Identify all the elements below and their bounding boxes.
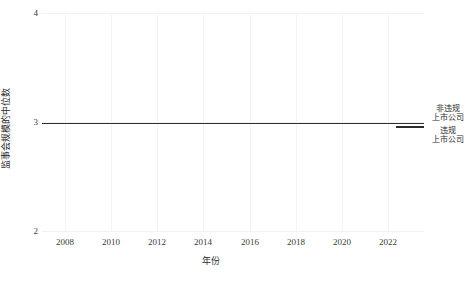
legend-label-line2: 上市公司 (426, 135, 470, 144)
legend-item-violating: 违规 上市公司 (426, 126, 470, 144)
y-tick-text: 2 (34, 226, 39, 236)
y-axis-title: 监事会规模的中位数 (0, 88, 12, 169)
x-tick-label-2012: 2012 (148, 238, 166, 247)
gridline-horizontal (42, 13, 424, 14)
y-tick-text: 4 (34, 8, 39, 18)
x-tick-label-2008: 2008 (56, 238, 74, 247)
x-tick-label-2014: 2014 (194, 238, 212, 247)
x-axis-title-text: 年份 (202, 254, 220, 267)
legend-swatch-violating (396, 126, 424, 128)
x-tick-label-2016: 2016 (241, 238, 259, 247)
x-tick-label-2018: 2018 (287, 238, 305, 247)
legend-label-line1: 非违规 (426, 104, 470, 113)
gridline-horizontal (42, 231, 424, 232)
legend-label-line2: 上市公司 (426, 113, 470, 122)
y-tick-label-4: 4 (0, 9, 38, 18)
plot-area (42, 13, 424, 232)
x-tick-label-2020: 2020 (333, 238, 351, 247)
y-tick-label-2: 2 (0, 227, 38, 236)
y-tick-text: 3 (34, 117, 39, 127)
x-tick-label-2010: 2010 (102, 238, 120, 247)
x-axis-title: 年份 (0, 254, 470, 267)
chart-canvas: 4 3 2 2008 2010 2012 2014 2016 2018 2020… (0, 0, 470, 283)
series-segment (42, 123, 424, 125)
x-tick-label-2022: 2022 (379, 238, 397, 247)
legend-item-nonviolating: 非违规 上市公司 (426, 104, 470, 122)
legend-label-line1: 违规 (426, 126, 470, 135)
